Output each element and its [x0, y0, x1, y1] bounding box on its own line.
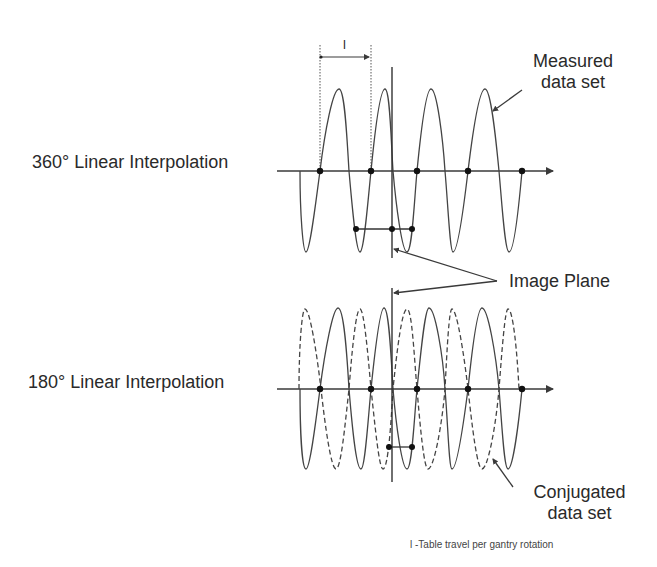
label-360-interpolation: 360° Linear Interpolation [32, 152, 228, 173]
sample-dot [414, 386, 420, 392]
bar-dot [409, 444, 415, 450]
conjugated-label-line2: data set [527, 503, 632, 524]
panel-360 [277, 45, 553, 258]
dimension-label: l [343, 37, 346, 52]
sample-dot [519, 168, 525, 174]
label-180-interpolation: 180° Linear Interpolation [28, 372, 224, 393]
sample-dot [465, 168, 471, 174]
conjugated-pointer-arrow [493, 459, 513, 487]
bar-dot [389, 226, 395, 232]
image-plane-callout [394, 249, 497, 293]
panel-180 [277, 288, 553, 487]
footnote: l -Table travel per gantry rotation [410, 539, 553, 550]
image-plane-arrow-bottom [394, 281, 497, 293]
sample-dot [317, 386, 323, 392]
measured-data-set-label: Measured data set [525, 51, 621, 93]
conjugated-label-line1: Conjugated [527, 482, 632, 503]
bar-dot [353, 226, 359, 232]
conjugated-data-set-label: Conjugated data set [527, 482, 632, 524]
dimension-start-dot [319, 55, 322, 58]
sample-dot [414, 168, 420, 174]
measured-label-line1: Measured [525, 51, 621, 72]
bar-dot [409, 226, 415, 232]
bar-dot [386, 444, 392, 450]
image-plane-arrow-top [394, 249, 497, 281]
sample-dot [368, 168, 374, 174]
sample-dot [368, 386, 374, 392]
measured-label-line2: data set [525, 72, 621, 93]
sample-dot [519, 386, 525, 392]
measured-pointer-arrow [493, 90, 522, 111]
sample-dot [317, 168, 323, 174]
image-plane-label: Image Plane [509, 271, 610, 292]
sample-dot [465, 386, 471, 392]
